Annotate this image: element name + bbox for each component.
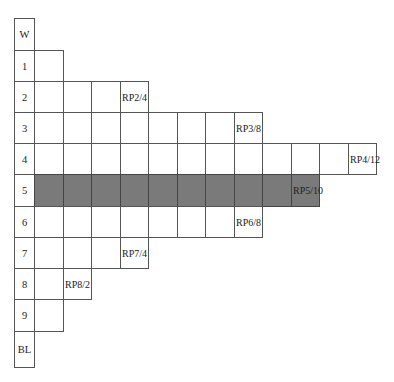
grid-cell: [34, 299, 64, 332]
grid-cell: [63, 81, 92, 113]
grid-cell: [91, 112, 121, 144]
grid-cell: [63, 206, 92, 238]
grid-cell: [177, 174, 206, 207]
row-label: 4: [14, 143, 35, 175]
grid-cell: [34, 237, 64, 269]
grid-cell: [120, 174, 149, 207]
grid-cell: [291, 143, 320, 175]
grid-cell: [34, 174, 64, 207]
grid-cell: [34, 112, 64, 144]
grid-cell: [148, 206, 178, 238]
grid-cell: [34, 143, 64, 175]
grid-cell: [91, 206, 121, 238]
grid-cell: [120, 206, 149, 238]
row-label: 3: [14, 112, 35, 144]
rp-cell: RP6/8: [234, 206, 263, 238]
rp-cell: RP2/4: [120, 81, 149, 113]
grid-cell: [262, 174, 292, 207]
grid-cell: [34, 81, 64, 113]
row-label: 6: [14, 206, 35, 238]
grid-cell: [63, 174, 92, 207]
grid-cell: [205, 143, 235, 175]
grid-cell: [91, 143, 121, 175]
row-label: 1: [14, 50, 35, 82]
grid-cell: [120, 112, 149, 144]
grid-cell: [177, 206, 206, 238]
grid-cell: [91, 237, 121, 269]
row-label: W: [14, 18, 35, 51]
row-label: 7: [14, 237, 35, 269]
grid-cell: [63, 112, 92, 144]
grid-cell: [319, 143, 349, 175]
row-label: BL: [14, 331, 35, 368]
grid-cell: [120, 143, 149, 175]
grid-cell: [63, 237, 92, 269]
rp-cell: RP3/8: [234, 112, 263, 144]
row-label: 8: [14, 268, 35, 300]
row-grid-diagram: W12RP2/43RP3/84RP4/125RP5/106RP6/87RP7/4…: [0, 0, 394, 382]
rp-cell: RP5/10: [291, 174, 320, 207]
grid-cell: [148, 174, 178, 207]
grid-cell: [148, 143, 178, 175]
row-label: 5: [14, 174, 35, 207]
grid-cell: [34, 206, 64, 238]
grid-cell: [91, 174, 121, 207]
grid-cell: [205, 206, 235, 238]
grid-cell: [177, 143, 206, 175]
grid-cell: [205, 174, 235, 207]
row-label: 9: [14, 299, 35, 332]
grid-cell: [34, 50, 64, 82]
grid-cell: [63, 143, 92, 175]
grid-cell: [34, 268, 64, 300]
grid-cell: [262, 143, 292, 175]
rp-cell: RP8/2: [63, 268, 92, 300]
row-label: 2: [14, 81, 35, 113]
grid-cell: [205, 112, 235, 144]
rp-cell: RP4/12: [348, 143, 377, 175]
grid-cell: [91, 81, 121, 113]
grid-cell: [234, 143, 263, 175]
grid-cell: [234, 174, 263, 207]
grid-cell: [177, 112, 206, 144]
rp-cell: RP7/4: [120, 237, 149, 269]
grid-cell: [148, 112, 178, 144]
